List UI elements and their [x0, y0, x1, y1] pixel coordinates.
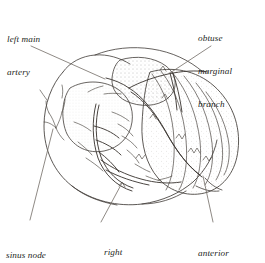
- label-obtuse-marginal-branch: obtuse marginal branch: [198, 11, 232, 132]
- label-anterior-descending-artery: anterior descending artery: [198, 226, 240, 263]
- label-obtuse-marginal-branch-line2: marginal: [198, 66, 232, 77]
- anatomical-illustration-canvas: left main artery obtuse marginal branch …: [0, 0, 265, 263]
- leader-left-main-artery: [31, 46, 105, 79]
- leader-anterior-descending-artery: [203, 176, 213, 222]
- label-right-coronary-artery: right coronary artery: [104, 225, 138, 263]
- label-sinus-node-branch-line1: sinus node: [6, 250, 46, 261]
- label-obtuse-marginal-branch-line3: branch: [198, 99, 232, 110]
- label-anterior-descending-artery-line1: anterior: [198, 248, 240, 259]
- label-left-main-artery: left main artery: [7, 12, 40, 100]
- label-right-coronary-artery-line1: right: [104, 247, 138, 258]
- leader-right-coronary-artery: [101, 183, 122, 222]
- label-left-main-artery-line1: left main: [7, 34, 40, 45]
- label-obtuse-marginal-branch-line1: obtuse: [198, 33, 232, 44]
- label-sinus-node-branch: sinus node branch: [6, 228, 46, 263]
- label-left-main-artery-line2: artery: [7, 67, 40, 78]
- leader-sinus-node-branch: [30, 129, 53, 220]
